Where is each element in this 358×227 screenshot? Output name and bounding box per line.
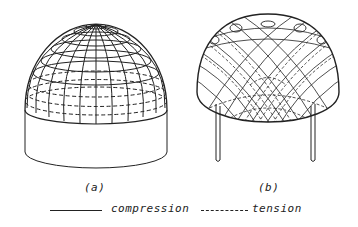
diagram-canvas bbox=[0, 0, 358, 227]
caption-a: (a) bbox=[84, 181, 105, 194]
dome-b bbox=[180, 5, 356, 162]
caption-b: (b) bbox=[258, 181, 279, 194]
legend-dashed-line-icon bbox=[201, 210, 248, 211]
legend-label-tension: tension bbox=[252, 202, 302, 215]
dome-a bbox=[25, 23, 167, 168]
column-supports bbox=[216, 104, 315, 162]
legend-solid-line-icon bbox=[50, 210, 102, 211]
legend-label-compression: compression bbox=[111, 202, 189, 215]
stress-trajectories bbox=[180, 5, 356, 140]
meridians bbox=[27, 24, 165, 124]
